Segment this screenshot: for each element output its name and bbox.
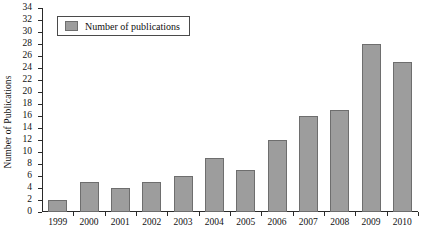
bars-layer (42, 8, 418, 212)
y-axis-tick-label: 24 (10, 63, 32, 73)
bar[interactable] (205, 158, 224, 212)
bar[interactable] (268, 140, 287, 212)
y-axis-tick-label: 22 (10, 75, 32, 85)
y-axis-tick-label: 4 (10, 183, 32, 193)
y-axis-tick-label: 28 (10, 39, 32, 49)
y-axis-tick-label: 20 (10, 87, 32, 97)
y-axis-tick-label: 34 (10, 3, 32, 13)
y-axis-tick-label: 18 (10, 99, 32, 109)
y-axis-tick-label: 8 (10, 159, 32, 169)
chart-legend: Number of publications (57, 16, 190, 36)
bar[interactable] (142, 182, 161, 212)
plot-area (42, 8, 418, 212)
bar[interactable] (80, 182, 99, 212)
y-axis-tick-label: 30 (10, 27, 32, 37)
y-axis-tick-label: 26 (10, 51, 32, 61)
y-axis-tick (38, 212, 42, 213)
bar[interactable] (111, 188, 130, 212)
y-axis-tick-label: 16 (10, 111, 32, 121)
y-axis-tick-label: 10 (10, 147, 32, 157)
y-axis-tick-label: 14 (10, 123, 32, 133)
y-axis-tick-label: 32 (10, 15, 32, 25)
y-axis-tick-label: 12 (10, 135, 32, 145)
x-axis-tick-labels: 1999200020012002200320042005200620072008… (42, 216, 418, 232)
y-axis-tick-label: 2 (10, 195, 32, 205)
legend-label: Number of publications (85, 21, 180, 32)
bar[interactable] (330, 110, 349, 212)
bar[interactable] (236, 170, 255, 212)
x-axis-tick-label: 2010 (382, 216, 422, 228)
y-axis-tick-label: 0 (10, 207, 32, 217)
bar[interactable] (362, 44, 381, 212)
bar-chart: Number of Publications 02468101214161820… (0, 0, 424, 244)
bar[interactable] (393, 62, 412, 212)
bar[interactable] (48, 200, 67, 212)
legend-swatch-icon (65, 21, 78, 31)
bar[interactable] (174, 176, 193, 212)
bar[interactable] (299, 116, 318, 212)
y-axis-tick-label: 6 (10, 171, 32, 181)
